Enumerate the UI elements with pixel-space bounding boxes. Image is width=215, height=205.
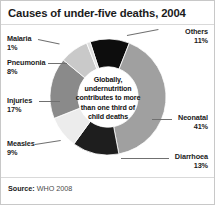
slice-label-diarrhoea: Diarrhoea 13% [175,152,208,171]
donut-chart [49,29,167,165]
slice-label-diarrhoea-name: Diarrhoea [175,152,208,161]
slice-label-malaria: Malaria 1% [7,34,31,53]
slice-label-neonatal-name: Neonatal [178,113,208,122]
source-label: Source: [8,184,35,193]
donut-slices [50,39,166,155]
leader-line-neonatal [152,119,172,120]
slice-label-pneumonia-pct: 8% [7,67,45,76]
slice-label-measles-name: Measles [7,139,35,148]
leader-line-pneumonia [48,63,67,64]
slice-label-injuries: Injuries 17% [7,96,32,115]
slice-label-pneumonia: Pneumonia 8% [7,58,45,77]
slice-label-injuries-pct: 17% [7,105,32,114]
slice-label-neonatal-pct: 41% [178,122,208,131]
slice-label-measles-pct: 9% [7,148,35,157]
leader-line-diarrhoea [121,158,169,159]
slice-label-pneumonia-name: Pneumonia [7,58,45,67]
slice-label-others-name: Others [185,27,208,36]
slice-label-malaria-name: Malaria [7,34,31,43]
page-title: Causes of under-five deaths, 2004 [8,7,186,19]
slice-label-diarrhoea-pct: 13% [175,161,208,170]
source-divider [1,177,214,178]
donut-svg [49,29,167,165]
source-value: WHO 2008 [37,184,73,193]
slice-label-malaria-pct: 1% [7,43,31,52]
slice-label-neonatal: Neonatal 41% [178,113,208,132]
slice-label-others-pct: 11% [185,36,208,45]
leader-line-injuries [39,101,60,102]
chart-panel: Causes of under-five deaths, 2004 Global… [0,0,215,205]
slice-label-others: Others 11% [185,27,208,46]
chart-area: Globally, undernutrition contributes to … [1,25,214,171]
slice-label-injuries-name: Injuries [7,96,32,105]
slice-label-measles: Measles 9% [7,139,35,158]
source-note: Source: WHO 2008 [8,184,72,193]
